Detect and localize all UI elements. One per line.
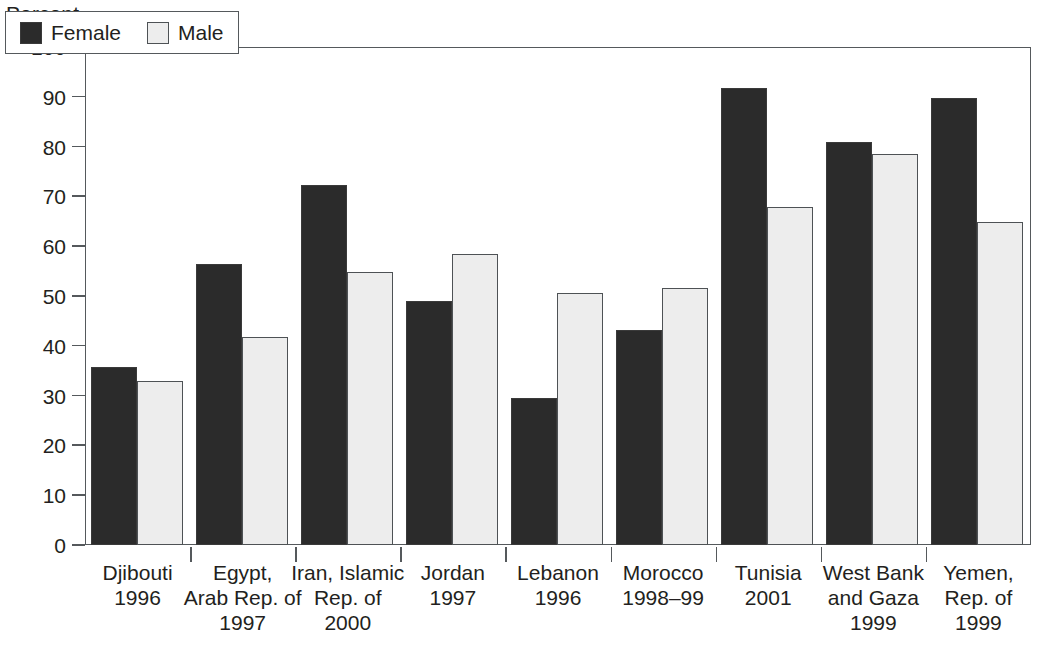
y-axis-tick-mark — [72, 345, 85, 347]
bar-chart: Percent 1009080706050403020100 FemaleMal… — [0, 0, 1052, 666]
x-axis-label-line: Egypt, — [182, 560, 303, 585]
bar-female — [721, 88, 767, 545]
y-axis-tick-label: 50 — [43, 286, 66, 307]
x-axis-label: West Bankand Gaza1999 — [813, 560, 934, 635]
x-axis-label-line: 1997 — [392, 585, 513, 610]
bar-male — [137, 381, 183, 545]
x-axis-label: Yemen,Rep. of1999 — [918, 560, 1039, 635]
bar-female — [91, 367, 137, 545]
y-axis-tick-mark — [72, 96, 85, 98]
x-axis-label-line: Lebanon — [497, 560, 618, 585]
y-axis: 1009080706050403020100 — [0, 0, 85, 666]
y-axis-tick-mark — [72, 195, 85, 197]
x-axis-label-line: Tunisia — [708, 560, 829, 585]
y-axis-tick-label: 90 — [43, 86, 66, 107]
y-axis-tick-label: 10 — [43, 485, 66, 506]
x-axis-label-line: Jordan — [392, 560, 513, 585]
x-axis-label-line: Arab Rep. of — [182, 585, 303, 610]
x-axis-label-line: Rep. of — [918, 585, 1039, 610]
legend-entry-male: Male — [147, 22, 224, 44]
x-axis-label-line: Rep. of — [287, 585, 408, 610]
x-axis-labels: Djibouti1996Egypt,Arab Rep. of1997Iran, … — [85, 560, 1031, 666]
bar-male — [767, 207, 813, 545]
x-axis-label-line: 1997 — [182, 610, 303, 635]
bar-female — [511, 398, 557, 545]
x-axis-label-line: 2000 — [287, 610, 408, 635]
x-axis-label: Jordan1997 — [392, 560, 513, 610]
bar-male — [452, 254, 498, 545]
x-axis-label: Iran, IslamicRep. of2000 — [287, 560, 408, 635]
y-axis-tick-label: 80 — [43, 136, 66, 157]
y-axis-tick-mark — [72, 494, 85, 496]
bar-male — [872, 154, 918, 545]
y-axis-tick-mark — [72, 245, 85, 247]
legend-label: Female — [51, 22, 121, 43]
x-axis-label: Djibouti1996 — [77, 560, 198, 610]
bar-male — [557, 293, 603, 545]
x-axis-label: Morocco1998–99 — [603, 560, 724, 610]
x-axis-label-line: Djibouti — [77, 560, 198, 585]
bar-female — [826, 142, 872, 545]
chart-legend: FemaleMale — [5, 11, 239, 54]
x-axis-label-line: and Gaza — [813, 585, 934, 610]
x-axis-label: Tunisia2001 — [708, 560, 829, 610]
y-axis-tick-mark — [72, 544, 85, 546]
x-axis-label-line: 1996 — [497, 585, 618, 610]
y-axis-tick-label: 60 — [43, 236, 66, 257]
y-axis-tick-label: 70 — [43, 186, 66, 207]
y-axis-tick-label: 40 — [43, 335, 66, 356]
bar-male — [977, 222, 1023, 545]
x-axis-label: Lebanon1996 — [497, 560, 618, 610]
x-axis-label-line: 1999 — [918, 610, 1039, 635]
x-axis-label-line: Yemen, — [918, 560, 1039, 585]
bar-female — [301, 185, 347, 545]
x-axis-label-line: 1998–99 — [603, 585, 724, 610]
x-axis-label-line: West Bank — [813, 560, 934, 585]
x-axis-label-line: 2001 — [708, 585, 829, 610]
x-axis-label-line: Morocco — [603, 560, 724, 585]
legend-swatch-male — [147, 22, 169, 44]
bar-male — [242, 337, 288, 545]
bar-female — [196, 264, 242, 545]
legend-swatch-female — [20, 22, 42, 44]
y-axis-tick-mark — [72, 444, 85, 446]
y-axis-tick-label: 20 — [43, 435, 66, 456]
bar-male — [347, 272, 393, 545]
x-axis-label: Egypt,Arab Rep. of1997 — [182, 560, 303, 635]
legend-entry-female: Female — [20, 22, 121, 44]
bars-layer — [85, 47, 1031, 545]
bar-female — [406, 301, 452, 545]
x-axis-label-line: 1996 — [77, 585, 198, 610]
y-axis-tick-mark — [72, 395, 85, 397]
x-axis-label-line: Iran, Islamic — [287, 560, 408, 585]
bar-female — [931, 98, 977, 545]
bar-male — [662, 288, 708, 545]
legend-label: Male — [178, 22, 224, 43]
bar-female — [616, 330, 662, 545]
y-axis-tick-mark — [72, 295, 85, 297]
y-axis-tick-label: 0 — [54, 535, 66, 556]
y-axis-tick-mark — [72, 146, 85, 148]
x-axis-label-line: 1999 — [813, 610, 934, 635]
y-axis-tick-label: 30 — [43, 385, 66, 406]
